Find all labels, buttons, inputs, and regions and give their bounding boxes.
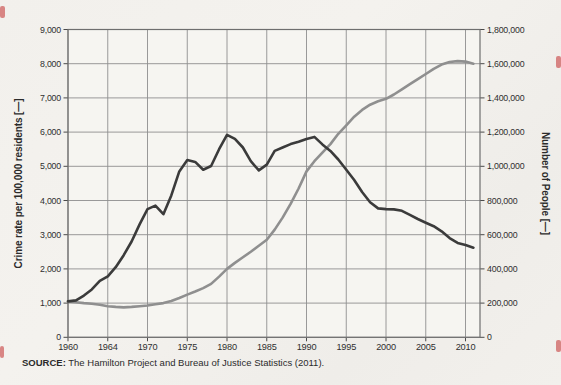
chart-svg: 1960196419701975198019851990199520002005… — [0, 0, 561, 385]
right-axis-tick-label: 400,000 — [487, 264, 518, 274]
x-tick-label: 1964 — [98, 342, 118, 352]
x-tick-label: 2000 — [376, 342, 396, 352]
scan-artifact-top-right — [556, 56, 561, 68]
left-axis-title: Crime rate per 100,000 residents [—] — [14, 98, 25, 268]
left-axis-tick-label: 1,000 — [40, 298, 61, 308]
x-tick-label: 1985 — [257, 342, 277, 352]
left-axis-tick-label: 7,000 — [40, 93, 61, 103]
plot-area — [68, 30, 480, 338]
left-axis-tick-label: 3,000 — [40, 230, 61, 240]
left-axis-tick-label: 9,000 — [40, 25, 61, 35]
right-axis-title-wrap: Number of People [—] — [532, 29, 558, 337]
source-text: The Hamilton Project and Bureau of Justi… — [66, 357, 324, 368]
right-axis-tick-label: 1,800,000 — [487, 25, 525, 35]
source-note: SOURCE: The Hamilton Project and Bureau … — [22, 357, 324, 368]
x-tick-label: 1995 — [336, 342, 356, 352]
right-axis-tick-label: 1,600,000 — [487, 59, 525, 69]
right-axis-tick-label: 0 — [487, 332, 492, 342]
x-tick-label: 1970 — [138, 342, 158, 352]
x-tick-label: 1975 — [177, 342, 197, 352]
left-axis-tick-label: 8,000 — [40, 59, 61, 69]
right-axis-tick-label: 1,200,000 — [487, 127, 525, 137]
right-axis-tick-label: 200,000 — [487, 298, 518, 308]
right-axis-tick-label: 1,400,000 — [487, 93, 525, 103]
x-tick-label: 1960 — [58, 342, 78, 352]
x-tick-label: 1980 — [217, 342, 237, 352]
x-tick-label: 2010 — [456, 342, 476, 352]
x-tick-label: 2005 — [416, 342, 436, 352]
scan-artifact-bottom-right — [556, 340, 561, 352]
right-axis-tick-label: 1,000,000 — [487, 161, 525, 171]
left-axis-tick-label: 4,000 — [40, 196, 61, 206]
right-axis-tick-label: 600,000 — [487, 230, 518, 240]
left-axis-tick-label: 0 — [56, 332, 61, 342]
x-tick-label: 1990 — [297, 342, 317, 352]
left-axis-tick-label: 2,000 — [40, 264, 61, 274]
right-axis-tick-label: 800,000 — [487, 196, 518, 206]
scan-artifact-bottom-left — [0, 346, 4, 358]
left-axis-title-wrap: Crime rate per 100,000 residents [—] — [6, 29, 32, 337]
right-axis-title: Number of People [—] — [540, 131, 551, 234]
source-label: SOURCE: — [22, 357, 66, 368]
scan-artifact-top-left — [0, 6, 5, 18]
scanned-chart-page: 1960196419701975198019851990199520002005… — [0, 0, 561, 385]
left-axis-tick-label: 5,000 — [40, 161, 61, 171]
left-axis-tick-label: 6,000 — [40, 127, 61, 137]
